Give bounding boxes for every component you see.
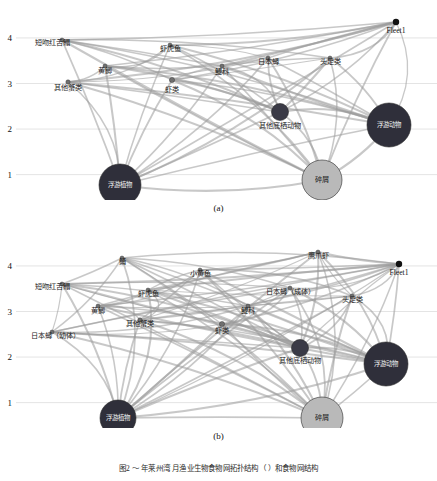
web-node[interactable] xyxy=(219,321,224,326)
web-node-label: 短吻红舌鳎 xyxy=(35,282,70,291)
web-node-label: 日本蟳（幼体） xyxy=(31,331,80,340)
panel-b: 4321浮游植物碎屑浮游动物其他底栖动物日本蟳（幼体）其他蟹类虾类黄鲫鳀科虾虎鱼… xyxy=(0,228,437,453)
web-node[interactable] xyxy=(272,104,289,121)
web-node-label: 虾类 xyxy=(215,326,229,335)
web-node-label: 虾虎鱼 xyxy=(160,44,181,53)
axis-tick-label: 4 xyxy=(8,261,13,271)
web-node-label: 虾虎鱼 xyxy=(138,289,159,298)
axis-tick-label: 3 xyxy=(8,307,13,317)
web-node-label: 其他蟹类 xyxy=(126,319,154,328)
axis-tick-label: 1 xyxy=(8,398,13,408)
fleet-label: Fleet1 xyxy=(387,26,406,35)
food-web-link xyxy=(120,180,322,191)
web-node-label: 碎屑 xyxy=(315,175,329,184)
panel-a: 4321浮游植物碎屑浮游动物其他底栖动物其他蟹类虾类黄鲫鳀科日本蟳头足类虾虎鱼短… xyxy=(0,0,437,225)
web-node-label: 头足类 xyxy=(342,295,363,304)
fleet-label: Fleet1 xyxy=(390,268,409,277)
web-node-label: 鳀科 xyxy=(215,67,229,76)
web-node-label: 其他蟹类 xyxy=(54,83,82,92)
fleet-node[interactable] xyxy=(393,19,399,25)
web-node[interactable] xyxy=(301,397,343,428)
panel-a-plot: 4321浮游植物碎屑浮游动物其他底栖动物其他蟹类虾类黄鲫鳀科日本蟳头足类虾虎鱼短… xyxy=(0,0,437,200)
food-web-link xyxy=(318,252,399,264)
web-node[interactable] xyxy=(292,340,309,357)
web-node-label: 碎屑 xyxy=(315,413,329,422)
food-web-link xyxy=(120,125,389,185)
web-node-label: 小黄鱼 xyxy=(190,269,211,278)
web-node-label: 浮游动物 xyxy=(377,120,402,129)
web-node-label: 浮游动物 xyxy=(374,359,399,368)
fleet-node[interactable] xyxy=(396,261,402,267)
axis-tick-label: 3 xyxy=(8,79,13,89)
axis-tick-label: 4 xyxy=(8,33,13,43)
web-node-label: 虾类 xyxy=(165,85,179,94)
panel-b-plot: 4321浮游植物碎屑浮游动物其他底栖动物日本蟳（幼体）其他蟹类虾类黄鲫鳀科虾虎鱼… xyxy=(0,228,437,428)
web-node-label: 浮游植物 xyxy=(108,180,133,189)
panel-b-caption: (b) xyxy=(0,431,437,441)
food-web-link xyxy=(52,258,122,332)
food-web-link xyxy=(122,252,399,264)
axis-tick-label: 2 xyxy=(8,352,13,362)
web-node-label: 浮游植物 xyxy=(106,413,131,422)
panel-a-caption: (a) xyxy=(0,203,437,213)
web-node-label: 鹰爪虾 xyxy=(308,251,329,260)
web-node-label: 黄鲫 xyxy=(98,66,112,75)
web-node-label: 短吻红舌鳎 xyxy=(35,38,70,47)
web-node-label: 头足类 xyxy=(320,57,341,66)
figure-caption: 图2 ～ 年莱州湾 月渔业生物食物网拓扑结构（ ）和食物网结构 xyxy=(0,462,437,473)
web-node-label: 黄鲫 xyxy=(91,306,105,315)
axis-tick-label: 2 xyxy=(8,124,13,134)
food-web-figure: 4321浮游植物碎屑浮游动物其他底栖动物其他蟹类虾类黄鲫鳀科日本蟳头足类虾虎鱼短… xyxy=(0,0,437,481)
axis-tick-label: 1 xyxy=(8,170,13,180)
web-node-label: 日本蟳（成体） xyxy=(266,287,315,296)
web-node-label: 日本蟳 xyxy=(258,57,279,66)
web-node[interactable] xyxy=(169,77,174,82)
web-node-label: 其他底栖动物 xyxy=(259,121,301,130)
food-web-link xyxy=(118,417,322,418)
web-node-label: 其他底栖动物 xyxy=(279,356,321,365)
web-node-label: 鲬 xyxy=(119,257,126,266)
web-node-label: 鳀科 xyxy=(241,306,255,315)
